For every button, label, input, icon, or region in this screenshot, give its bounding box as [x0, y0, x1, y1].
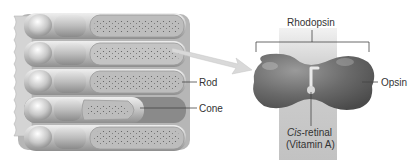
photoreceptor-stack	[14, 13, 197, 151]
cis-retinal-label: Cis-retinal	[287, 127, 332, 138]
cis-suffix: -retinal	[301, 127, 332, 138]
rod-label: Rod	[199, 77, 217, 88]
rod-cell-3	[24, 69, 186, 95]
rod-cell-5	[24, 125, 186, 151]
cone-label: Cone	[199, 103, 223, 114]
vitamin-a-label: (Vitamin A)	[286, 139, 335, 150]
rhodopsin-label: Rhodopsin	[287, 17, 335, 28]
cis-prefix: Cis	[287, 127, 301, 138]
cone-cell	[24, 97, 186, 123]
rod-cell-1	[24, 13, 186, 39]
rod-cell-2	[24, 41, 186, 67]
opsin-label: Opsin	[381, 77, 407, 88]
